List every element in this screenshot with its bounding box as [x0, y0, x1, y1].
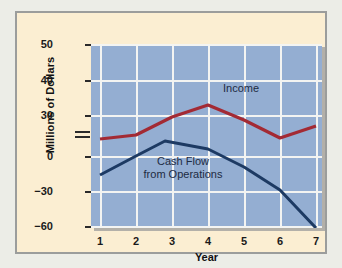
- ytick-label-neg60: −60: [13, 221, 53, 232]
- axis-break-icon: [75, 131, 91, 140]
- xtick-label-1: 1: [88, 235, 112, 247]
- series-label-cashflow: Cash Flow from Operations: [135, 155, 231, 181]
- ytick-mark-neg30: [85, 191, 91, 193]
- xtick-label-2: 2: [124, 235, 148, 247]
- xtick-label-4: 4: [196, 235, 220, 247]
- ytick-mark-neg60: [85, 226, 91, 228]
- xaxis-title: Year: [91, 251, 322, 263]
- ytick-mark-40: [85, 80, 91, 82]
- ytick-mark-50: [85, 44, 91, 46]
- xtick-label-3: 3: [160, 235, 184, 247]
- xtick-label-7: 7: [304, 235, 328, 247]
- figure-container: Income Cash Flow from Operations 50 40 3…: [0, 0, 342, 268]
- series-lines: [91, 44, 322, 228]
- plot-area: Income Cash Flow from Operations: [91, 44, 322, 228]
- xtick-label-6: 6: [268, 235, 292, 247]
- ytick-mark-0: [85, 156, 91, 158]
- series-label-income: Income: [223, 82, 259, 95]
- yaxis-title: Millions of Dollars: [44, 45, 56, 165]
- chart-card: Income Cash Flow from Operations 50 40 3…: [15, 11, 327, 254]
- xtick-label-5: 5: [232, 235, 256, 247]
- ytick-label-neg30: −30: [13, 186, 53, 197]
- ytick-mark-30: [85, 115, 91, 117]
- plot-inner: Income Cash Flow from Operations: [91, 44, 322, 228]
- income-line: [100, 105, 316, 139]
